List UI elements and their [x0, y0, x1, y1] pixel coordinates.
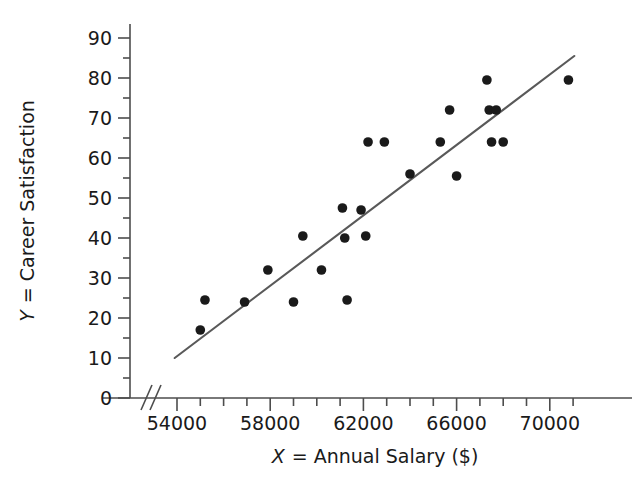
y-tick-label: 30	[88, 267, 112, 289]
y-tick-label: 0	[100, 387, 112, 409]
data-point	[435, 137, 445, 147]
x-tick-label: 62000	[333, 412, 393, 434]
y-axis-tick-labels: 0102030405060708090	[88, 27, 112, 409]
data-point	[487, 137, 497, 147]
data-point	[564, 75, 574, 85]
x-axis-ticks	[177, 398, 573, 411]
y-tick-label: 70	[88, 107, 112, 129]
data-point	[452, 171, 462, 181]
y-axis-title: Y= Career Satisfaction	[16, 100, 38, 322]
y-axis-ticks	[118, 38, 130, 398]
regression-trend-line	[175, 56, 575, 358]
data-point	[491, 105, 501, 115]
data-point-group	[195, 75, 573, 335]
data-point	[263, 265, 273, 275]
data-point	[317, 265, 327, 275]
y-tick-label: 90	[88, 27, 112, 49]
y-tick-label: 80	[88, 67, 112, 89]
x-axis-tick-labels: 5400058000620006600070000	[147, 412, 580, 434]
data-point	[342, 295, 352, 305]
x-tick-label: 70000	[520, 412, 580, 434]
chart-canvas: 0102030405060708090 54000580006200066000…	[0, 0, 638, 497]
data-point	[361, 231, 371, 241]
data-point	[405, 169, 415, 179]
data-point	[338, 203, 348, 213]
y-tick-label: 40	[88, 227, 112, 249]
x-tick-label: 66000	[426, 412, 486, 434]
data-point	[363, 137, 373, 147]
data-point	[289, 297, 299, 307]
y-tick-label: 60	[88, 147, 112, 169]
data-point	[356, 205, 366, 215]
x-tick-label: 58000	[240, 412, 300, 434]
data-point	[298, 231, 308, 241]
x-tick-label: 54000	[147, 412, 207, 434]
x-axis-title: X= Annual Salary ($)	[271, 445, 479, 467]
data-point	[445, 105, 455, 115]
y-tick-label: 10	[88, 347, 112, 369]
y-tick-label: 20	[88, 307, 112, 329]
y-tick-label: 50	[88, 187, 112, 209]
scatter-plot-figure: 0102030405060708090 54000580006200066000…	[0, 0, 638, 497]
data-point	[200, 295, 210, 305]
data-point	[380, 137, 390, 147]
data-point	[498, 137, 508, 147]
data-point	[340, 233, 350, 243]
data-point	[240, 297, 250, 307]
data-point	[195, 325, 205, 335]
data-point	[482, 75, 492, 85]
